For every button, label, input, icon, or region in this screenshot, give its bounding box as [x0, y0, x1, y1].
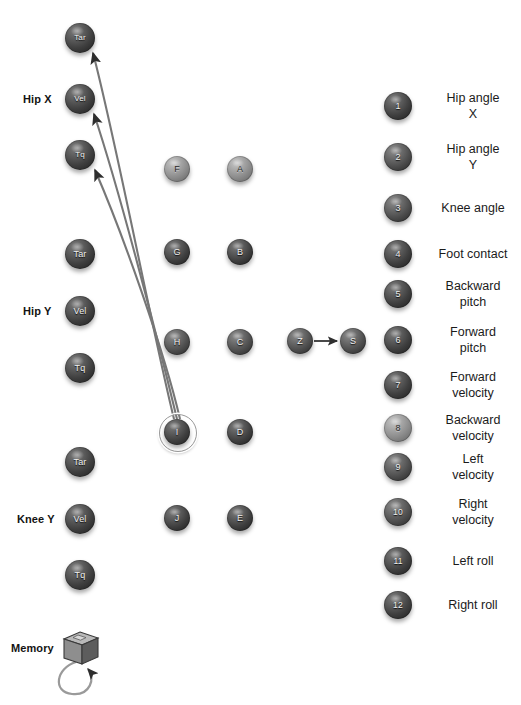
node-sensor-3[interactable]: 3: [384, 194, 412, 222]
group-label-hip-y: Hip Y: [23, 305, 51, 317]
edge-i-to-hipx-tq: [95, 170, 180, 419]
node-label: I: [176, 428, 179, 437]
node-sensor-12[interactable]: 12: [384, 591, 412, 619]
node-G[interactable]: G: [164, 239, 190, 265]
node-hipy-tq[interactable]: Tq: [65, 353, 95, 383]
legend-sensor-8: Backward velocity: [430, 412, 516, 444]
node-J[interactable]: J: [164, 505, 190, 531]
node-label: F: [174, 165, 180, 174]
node-label: 8: [395, 424, 400, 433]
legend-sensor-3: Knee angle: [430, 200, 516, 216]
node-hipx-tar[interactable]: Tar: [65, 23, 95, 53]
memory-cube-icon[interactable]: [58, 630, 106, 672]
node-label: J: [175, 514, 180, 523]
node-hipy-vel[interactable]: Vel: [65, 296, 95, 326]
node-label: Z: [297, 337, 303, 346]
node-label: 5: [395, 290, 400, 299]
node-label: 12: [393, 601, 403, 610]
legend-sensor-2: Hip angle Y: [430, 141, 516, 173]
node-B[interactable]: B: [227, 239, 253, 265]
node-H[interactable]: H: [164, 329, 190, 355]
watermark: [432, 58, 438, 78]
legend-sensor-4: Foot contact: [430, 246, 516, 262]
node-Z[interactable]: Z: [287, 328, 313, 354]
node-label: C: [237, 338, 244, 347]
node-label: 11: [393, 557, 402, 566]
node-sensor-4[interactable]: 4: [384, 240, 412, 268]
node-label: 1: [395, 102, 400, 111]
legend-sensor-1: Hip angle X: [430, 90, 516, 122]
node-sensor-10[interactable]: 10: [384, 498, 412, 526]
legend-sensor-10: Right velocity: [430, 496, 516, 528]
node-hipx-tq[interactable]: Tq: [65, 140, 95, 170]
node-label: S: [350, 337, 356, 346]
group-label-hip-x: Hip X: [23, 93, 52, 105]
node-sensor-1[interactable]: 1: [384, 92, 412, 120]
node-label: B: [237, 248, 243, 257]
edge-i-to-hipx-tar: [93, 53, 174, 419]
node-hipx-vel[interactable]: Vel: [65, 84, 95, 114]
node-label: G: [173, 248, 180, 257]
node-label: H: [174, 338, 181, 347]
node-kneey-tq[interactable]: Tq: [65, 560, 95, 590]
node-label: Tar: [74, 34, 86, 42]
group-label-knee-y: Knee Y: [17, 513, 55, 525]
node-sensor-8[interactable]: 8: [384, 414, 412, 442]
legend-sensor-6: Forward pitch: [430, 324, 516, 356]
legend-sensor-5: Backward pitch: [430, 278, 516, 310]
legend-sensor-11: Left roll: [430, 553, 516, 569]
node-label: Tq: [75, 151, 85, 159]
node-label: D: [237, 428, 244, 437]
node-sensor-9[interactable]: 9: [384, 453, 412, 481]
edge-i-to-hipx-vel: [94, 114, 177, 419]
node-A[interactable]: A: [227, 156, 253, 182]
node-label: A: [237, 165, 243, 174]
node-label: 7: [395, 381, 400, 390]
node-F[interactable]: F: [164, 156, 190, 182]
node-sensor-6[interactable]: 6: [384, 326, 412, 354]
node-label: Tar: [73, 250, 86, 259]
legend-sensor-12: Right roll: [430, 597, 516, 613]
node-label: 9: [395, 463, 400, 472]
node-label: Vel: [73, 307, 86, 316]
node-S[interactable]: S: [340, 328, 366, 354]
node-label: 6: [395, 336, 400, 345]
node-label: 4: [395, 250, 400, 259]
node-label: Vel: [74, 95, 86, 103]
node-label: 2: [395, 153, 400, 162]
node-label: E: [237, 514, 243, 523]
node-D[interactable]: D: [227, 419, 253, 445]
neural-network-diagram: Hip X Hip Y Knee Y Memory Tar Vel Tq Tar…: [0, 0, 521, 705]
node-sensor-7[interactable]: 7: [384, 371, 412, 399]
legend-sensor-9: Left velocity: [430, 451, 516, 483]
node-sensor-5[interactable]: 5: [384, 280, 412, 308]
node-label: Tq: [75, 571, 86, 580]
node-sensor-2[interactable]: 2: [384, 143, 412, 171]
node-hipy-tar[interactable]: Tar: [65, 239, 95, 269]
legend-sensor-7: Forward velocity: [430, 369, 516, 401]
node-C[interactable]: C: [227, 329, 253, 355]
node-label: 3: [395, 204, 400, 213]
node-sensor-11[interactable]: 11: [384, 547, 412, 575]
node-E[interactable]: E: [227, 505, 253, 531]
node-label: Tq: [75, 364, 86, 373]
node-I[interactable]: I: [164, 419, 190, 445]
node-label: Tar: [73, 458, 86, 467]
group-label-memory: Memory: [11, 642, 54, 654]
node-label: Vel: [73, 515, 86, 524]
node-kneey-tar[interactable]: Tar: [65, 447, 95, 477]
node-label: 10: [393, 508, 403, 517]
node-kneey-vel[interactable]: Vel: [65, 504, 95, 534]
